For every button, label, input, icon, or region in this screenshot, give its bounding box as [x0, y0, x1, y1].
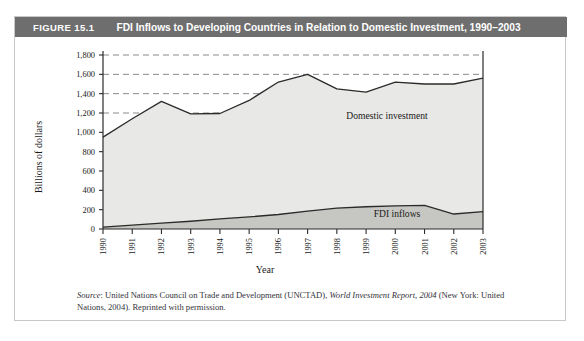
source-text-before: United Nations Council on Trade and Deve… — [105, 290, 329, 300]
figure-title: FDI Inflows to Developing Countries in R… — [116, 22, 520, 33]
x-axis-tick-label: 1995 — [245, 238, 254, 255]
x-axis-tick-label: 2001 — [421, 238, 430, 255]
y-axis-ticks-group: 02004006008001,0001,2001,4001,6001,800 — [76, 51, 103, 234]
area-chart: 02004006008001,0001,2001,4001,6001,800 1… — [15, 37, 567, 287]
figure-number-badge: FIGURE 15.1 — [33, 22, 94, 33]
source-label: Source — [77, 290, 101, 300]
y-axis-tick-label: 1,400 — [76, 90, 95, 99]
x-axis-ticks-group: 1990199119921993199419951996199719981999… — [99, 229, 488, 255]
x-axis-tick-label: 1993 — [187, 238, 196, 255]
x-axis-tick-label: 1996 — [274, 238, 283, 255]
x-axis-tick-label: 1994 — [216, 237, 225, 255]
y-axis-tick-label: 1,000 — [76, 128, 95, 137]
y-axis-tick-label: 200 — [82, 206, 95, 215]
y-axis-tick-label: 1,600 — [76, 70, 95, 79]
x-axis-tick-label: 1992 — [157, 238, 166, 255]
figure-card: FIGURE 15.1 FDI Inflows to Developing Co… — [14, 16, 566, 321]
y-axis-tick-label: 600 — [82, 167, 95, 176]
x-axis-tick-label: 2000 — [391, 238, 400, 255]
figure-header-bar: FIGURE 15.1 FDI Inflows to Developing Co… — [15, 17, 567, 37]
x-axis-tick-label: 1999 — [362, 238, 371, 255]
x-axis-tick-label: 1997 — [304, 238, 313, 255]
x-axis-title: Year — [256, 264, 275, 275]
x-axis-tick-label: 2002 — [450, 238, 459, 255]
source-note: Source: United Nations Council on Trade … — [77, 289, 529, 313]
chart-area: 02004006008001,0001,2001,4001,6001,800 1… — [15, 37, 567, 287]
y-axis-tick-label: 1,800 — [76, 51, 95, 60]
y-axis-tick-label: 0 — [91, 225, 95, 234]
x-axis-tick-label: 2003 — [479, 238, 488, 255]
source-report-title: World Investment Report, 2004 — [329, 290, 436, 300]
y-axis-tick-label: 800 — [82, 148, 95, 157]
x-axis-tick-label: 1990 — [99, 238, 108, 255]
x-axis-tick-label: 1991 — [128, 238, 137, 255]
y-axis-tick-label: 400 — [82, 186, 95, 195]
y-axis-title: Billions of dollars — [33, 121, 44, 193]
y-axis-tick-label: 1,200 — [76, 109, 95, 118]
domestic-investment-label: Domestic investment — [346, 110, 428, 121]
x-axis-tick-label: 1998 — [333, 238, 342, 255]
fdi-inflows-label: FDI inflows — [374, 208, 421, 219]
